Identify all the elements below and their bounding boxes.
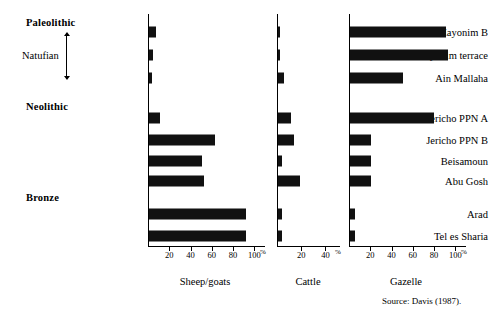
panel-1-title: Cattle (295, 276, 320, 287)
panel-2-tick-3 (434, 247, 435, 251)
panel-2-tick-label-3: 80 (430, 250, 439, 260)
panel-0-tick-label-2: 60 (208, 250, 217, 260)
panel-0-tick-2 (212, 247, 213, 251)
bar-2-5 (350, 156, 371, 167)
panel-0-tick-label-0: 20 (165, 250, 174, 260)
panel-0-tick-4 (254, 247, 255, 251)
bar-1-8 (278, 231, 282, 242)
panel-cattle: 20 40 % Cattle (277, 0, 347, 316)
bar-1-1 (278, 50, 280, 61)
panel-1-x-axis (277, 246, 340, 247)
bar-2-6 (350, 176, 371, 187)
bar-2-0 (350, 27, 446, 38)
panel-1-tick-label-1: 40 (321, 250, 330, 260)
bar-2-2 (350, 73, 403, 84)
bar-1-0 (278, 27, 280, 38)
chart-figure: Paleolithic Natufian Neolithic Bronze Ha… (0, 0, 491, 316)
panel-0-title: Sheep/goats (180, 276, 231, 287)
period-label-bronze: Bronze (26, 192, 59, 203)
panel-0-tick-0 (169, 247, 170, 251)
period-label-paleolithic: Paleolithic (26, 17, 75, 28)
panel-sheep-goats: 20 40 60 80 100 % Sheep/goats (148, 0, 268, 316)
panel-0-x-axis (148, 246, 265, 247)
bar-2-1 (350, 50, 448, 61)
panel-2-tick-label-0: 20 (366, 250, 375, 260)
panel-2-tick-0 (370, 247, 371, 251)
panel-2-tick-4 (455, 247, 456, 251)
panel-gazelle: 20 40 60 80 100 % Gazelle (349, 0, 469, 316)
panel-0-tick-1 (191, 247, 192, 251)
panel-1-tick-1 (325, 247, 326, 251)
panel-2-tick-1 (392, 247, 393, 251)
panel-2-tick-label-4: 100 (449, 250, 462, 260)
group-label-natufian: Natufian (22, 50, 59, 61)
bar-1-3 (278, 113, 291, 124)
panel-0-tick-3 (233, 247, 234, 251)
bar-2-3 (350, 113, 434, 124)
bar-0-3 (149, 113, 160, 124)
period-label-neolithic: Neolithic (26, 101, 68, 112)
bar-0-8 (149, 231, 246, 242)
bar-0-1 (149, 50, 153, 61)
bar-1-5 (278, 156, 282, 167)
bar-2-7 (350, 209, 355, 220)
bar-2-4 (350, 135, 371, 146)
panel-0-tick-label-1: 40 (186, 250, 195, 260)
panel-0-tick-label-3: 80 (229, 250, 238, 260)
panel-1-tick-label-0: 20 (297, 250, 306, 260)
bar-1-7 (278, 209, 282, 220)
panel-2-title: Gazelle (390, 276, 422, 287)
panel-2-tick-label-1: 40 (387, 250, 396, 260)
panel-1-percent-label: % (335, 248, 341, 256)
bar-0-2 (149, 73, 152, 84)
panel-2-tick-label-2: 60 (409, 250, 418, 260)
bar-0-0 (149, 27, 156, 38)
bar-1-6 (278, 176, 300, 187)
bar-2-8 (350, 231, 355, 242)
panel-2-percent-label: % (461, 248, 467, 256)
panel-0-percent-label: % (260, 248, 266, 256)
panel-1-tick-0 (301, 247, 302, 251)
bar-0-7 (149, 209, 246, 220)
natufian-bracket (66, 33, 67, 79)
bar-0-4 (149, 135, 215, 146)
bar-1-2 (278, 73, 284, 84)
bar-0-6 (149, 176, 204, 187)
panel-2-tick-2 (413, 247, 414, 251)
bar-0-5 (149, 156, 202, 167)
source-note: Source: Davis (1987). (382, 296, 461, 306)
panel-2-x-axis (349, 246, 466, 247)
panel-0-tick-label-4: 100 (248, 250, 261, 260)
bar-1-4 (278, 135, 294, 146)
